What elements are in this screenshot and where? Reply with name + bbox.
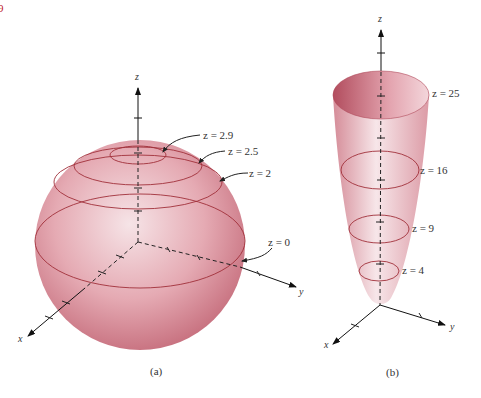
x-axis-label-a: x	[17, 333, 23, 344]
level-label-a-3: z = 0	[268, 236, 291, 248]
y-axis-label-b: y	[449, 321, 455, 332]
caption-a: (a)	[150, 365, 163, 378]
z-axis-label-a: z	[134, 71, 139, 82]
level-label-b-2: z = 9	[412, 222, 435, 234]
panel-b-paraboloid: z x y z = 25 z = 16 z = 9 z = 4 (b)	[323, 13, 460, 379]
level-label-b-3: z = 4	[402, 264, 425, 276]
x-axis-b	[333, 305, 380, 344]
y-axis-label-a: y	[298, 286, 304, 297]
caption-b: (b)	[386, 366, 399, 379]
corner-mark: 9	[0, 2, 4, 14]
y-axis-a	[240, 267, 296, 287]
level-label-b-1: z = 16	[420, 164, 448, 176]
level-label-b-0: z = 25	[432, 87, 460, 99]
level-label-a-0: z = 2.9	[203, 129, 234, 141]
z-axis-label-b: z	[377, 13, 382, 24]
y-axis-b	[380, 305, 445, 325]
figure: 9 z x y	[0, 0, 481, 398]
level-label-a-1: z = 2.5	[228, 145, 259, 157]
sphere-surface	[35, 140, 245, 350]
level-label-a-2: z = 2	[249, 167, 271, 179]
x-axis-label-b: x	[323, 339, 329, 350]
panel-a-sphere: z x y z = 2.9 z = 2.5	[17, 71, 304, 378]
